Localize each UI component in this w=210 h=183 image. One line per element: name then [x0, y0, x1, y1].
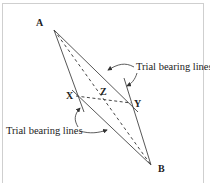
caption-trial-bearing-lines-top: Trial bearing lines [136, 61, 210, 72]
point-a-label: A [36, 17, 44, 28]
leader-arrow-top-2 [127, 73, 137, 86]
point-z-label: Z [100, 86, 107, 97]
point-y-label: Y [134, 98, 142, 109]
bearing-diagram: A B X Z Y Trial bearing lines Trial bear… [0, 0, 210, 183]
point-x-label: X [66, 90, 74, 101]
caption-trial-bearing-lines-bottom: Trial bearing lines [6, 125, 83, 136]
leader-arrow-bottom-2 [80, 130, 107, 133]
point-b-label: B [158, 163, 165, 174]
leader-arrow-top-1 [108, 64, 134, 70]
